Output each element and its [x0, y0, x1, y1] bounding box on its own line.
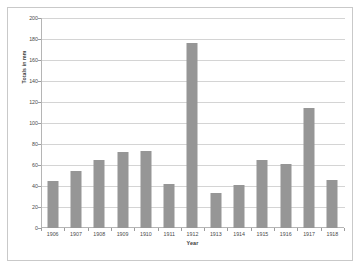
x-axis-tick-mark: [181, 228, 182, 231]
x-axis-tick-label: 1912: [181, 231, 204, 238]
y-axis-tick-label: 80: [16, 141, 38, 147]
x-axis-tick-mark: [111, 228, 112, 231]
bar-slot: [158, 18, 181, 228]
bar-slot: [134, 18, 157, 228]
x-axis-tick-label: 1917: [297, 231, 320, 238]
y-axis-tick-mark: [38, 39, 41, 40]
y-axis-tick-mark: [38, 207, 41, 208]
y-axis-tick-label: 160: [16, 57, 38, 63]
y-axis-tick-label: 200: [16, 15, 38, 21]
bar[interactable]: [70, 171, 81, 228]
y-axis-tick-mark: [38, 60, 41, 61]
bars-layer: [41, 18, 344, 228]
x-axis-tick-mark: [344, 228, 345, 231]
y-axis-tick-label: 40: [16, 183, 38, 189]
bar[interactable]: [47, 181, 58, 228]
y-axis-tick-label: 140: [16, 78, 38, 84]
y-axis-tick-mark: [38, 165, 41, 166]
bar-slot: [41, 18, 64, 228]
x-axis-tick-mark: [134, 228, 135, 231]
y-axis-tick-label: 100: [16, 120, 38, 126]
bar[interactable]: [94, 160, 105, 228]
x-axis-tick-label: 1913: [204, 231, 227, 238]
x-axis-tick-label: 1908: [88, 231, 111, 238]
x-axis-tick-label: 1915: [251, 231, 274, 238]
x-axis-tick-mark: [88, 228, 89, 231]
bar[interactable]: [117, 152, 128, 228]
bar[interactable]: [257, 160, 268, 228]
x-axis-tick-mark: [41, 228, 42, 231]
x-axis-tick-mark: [251, 228, 252, 231]
bar-slot: [181, 18, 204, 228]
y-axis-tick-label: 60: [16, 162, 38, 168]
y-axis-tick-mark: [38, 186, 41, 187]
bar[interactable]: [234, 185, 245, 228]
bar-slot: [111, 18, 134, 228]
x-axis-title: Year: [41, 240, 344, 246]
y-axis-tick-mark: [38, 123, 41, 124]
bar-slot: [64, 18, 87, 228]
bar[interactable]: [304, 108, 315, 228]
bar[interactable]: [187, 43, 198, 228]
x-axis-tick-label: 1907: [64, 231, 87, 238]
y-axis-tick-label: 120: [16, 99, 38, 105]
bar-slot: [204, 18, 227, 228]
y-axis-tick-label: 180: [16, 36, 38, 42]
y-axis-tick-mark: [38, 18, 41, 19]
bar-slot: [297, 18, 320, 228]
bar-slot: [321, 18, 344, 228]
x-axis-tick-mark: [64, 228, 65, 231]
y-axis-tick-labels: 020406080100120140160180200: [0, 0, 38, 269]
bar[interactable]: [210, 193, 221, 228]
bar[interactable]: [280, 164, 291, 228]
y-axis-tick-label: 20: [16, 204, 38, 210]
x-axis-tick-mark: [227, 228, 228, 231]
x-axis-tick-mark: [274, 228, 275, 231]
x-axis-tick-label: 1918: [321, 231, 344, 238]
x-axis-tick-mark: [204, 228, 205, 231]
bar-chart: Totals in mm 020406080100120140160180200…: [0, 0, 361, 269]
y-axis-tick-mark: [38, 102, 41, 103]
x-axis-tick-mark: [297, 228, 298, 231]
bar-slot: [274, 18, 297, 228]
y-axis-tick-mark: [38, 144, 41, 145]
x-axis-tick-mark: [321, 228, 322, 231]
x-axis-tick-label: 1910: [134, 231, 157, 238]
x-axis-tick-label: 1914: [227, 231, 250, 238]
x-axis-tick-label: 1911: [158, 231, 181, 238]
x-axis-tick-label: 1909: [111, 231, 134, 238]
bar[interactable]: [327, 180, 338, 228]
x-axis-tick-label: 1916: [274, 231, 297, 238]
x-axis-tick-mark: [158, 228, 159, 231]
y-axis-tick-label: 0: [16, 225, 38, 231]
y-axis-tick-mark: [38, 81, 41, 82]
bar-slot: [251, 18, 274, 228]
bar[interactable]: [164, 184, 175, 228]
bar-slot: [88, 18, 111, 228]
bar[interactable]: [140, 151, 151, 228]
bar-slot: [227, 18, 250, 228]
x-axis-tick-label: 1906: [41, 231, 64, 238]
